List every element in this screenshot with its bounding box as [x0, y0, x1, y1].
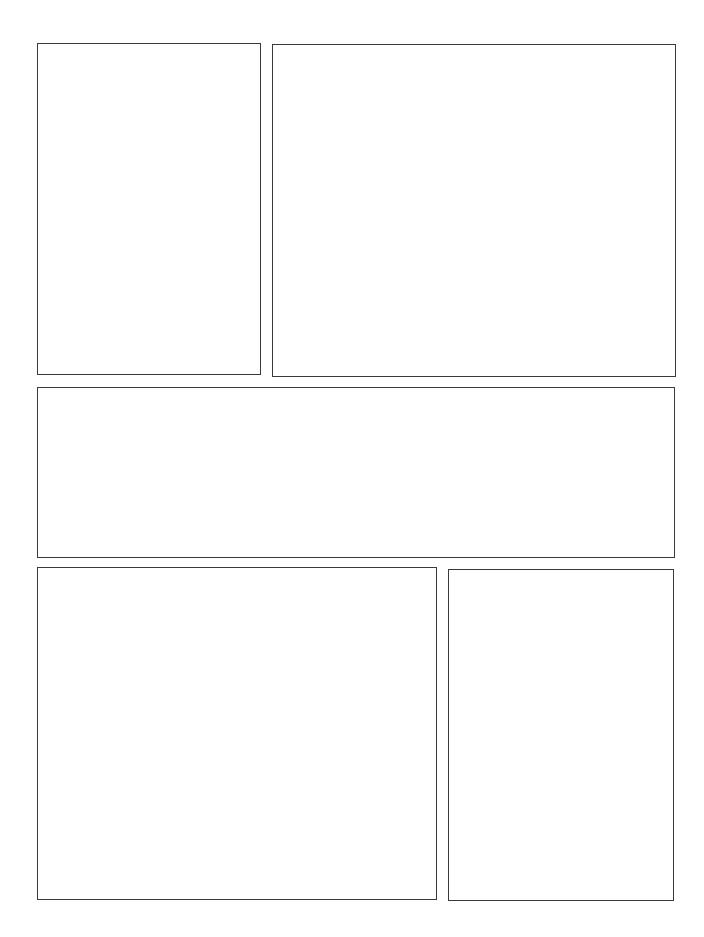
- panel-3: [37, 387, 675, 558]
- panel-1: [37, 43, 261, 375]
- panel-2: [272, 44, 676, 377]
- panel-4: [37, 567, 437, 900]
- panel-5: [448, 569, 674, 901]
